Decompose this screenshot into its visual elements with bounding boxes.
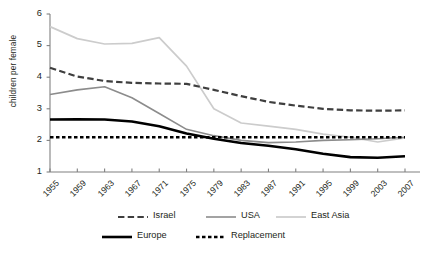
y-tick-label: 4 <box>28 71 42 81</box>
legend-swatch-europe <box>102 229 132 241</box>
legend-label: USA <box>241 209 260 221</box>
axis-lines <box>47 14 420 172</box>
legend-swatch-east-asia <box>276 209 306 221</box>
series-line-usa <box>50 87 405 143</box>
y-tick-label: 2 <box>28 134 42 144</box>
y-tick-label: 6 <box>28 8 42 18</box>
chart-figure: children per female 123456 1955195919631… <box>0 0 426 257</box>
legend-item-israel: Israel <box>118 208 175 222</box>
chart-legend: IsraelUSAEast AsiaEuropeReplacement <box>0 208 426 252</box>
legend-swatch-usa <box>206 209 236 221</box>
y-tick-label: 5 <box>28 39 42 49</box>
legend-label: East Asia <box>311 209 349 221</box>
legend-item-usa: USA <box>206 208 260 222</box>
y-tick-label: 1 <box>28 166 42 176</box>
y-tick-label: 3 <box>28 103 42 113</box>
legend-label: Replacement <box>231 229 285 241</box>
legend-swatch-replacement <box>196 229 226 241</box>
series-line-east-asia <box>50 27 405 142</box>
legend-label: Israel <box>153 209 175 221</box>
legend-label: Europe <box>137 229 167 241</box>
legend-item-east-asia: East Asia <box>276 208 349 222</box>
legend-item-europe: Europe <box>102 228 167 242</box>
legend-swatch-israel <box>118 209 148 221</box>
series-line-israel <box>50 68 405 111</box>
legend-item-replacement: Replacement <box>196 228 285 242</box>
